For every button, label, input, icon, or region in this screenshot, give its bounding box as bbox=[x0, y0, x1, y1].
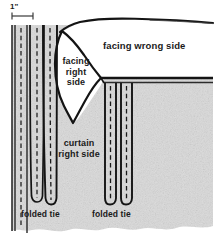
curtain-facing-diagram bbox=[0, 0, 214, 242]
diagram-canvas: 1" facing wrong side facing right side c… bbox=[0, 0, 214, 242]
dimension-line-1-inch bbox=[12, 13, 33, 20]
